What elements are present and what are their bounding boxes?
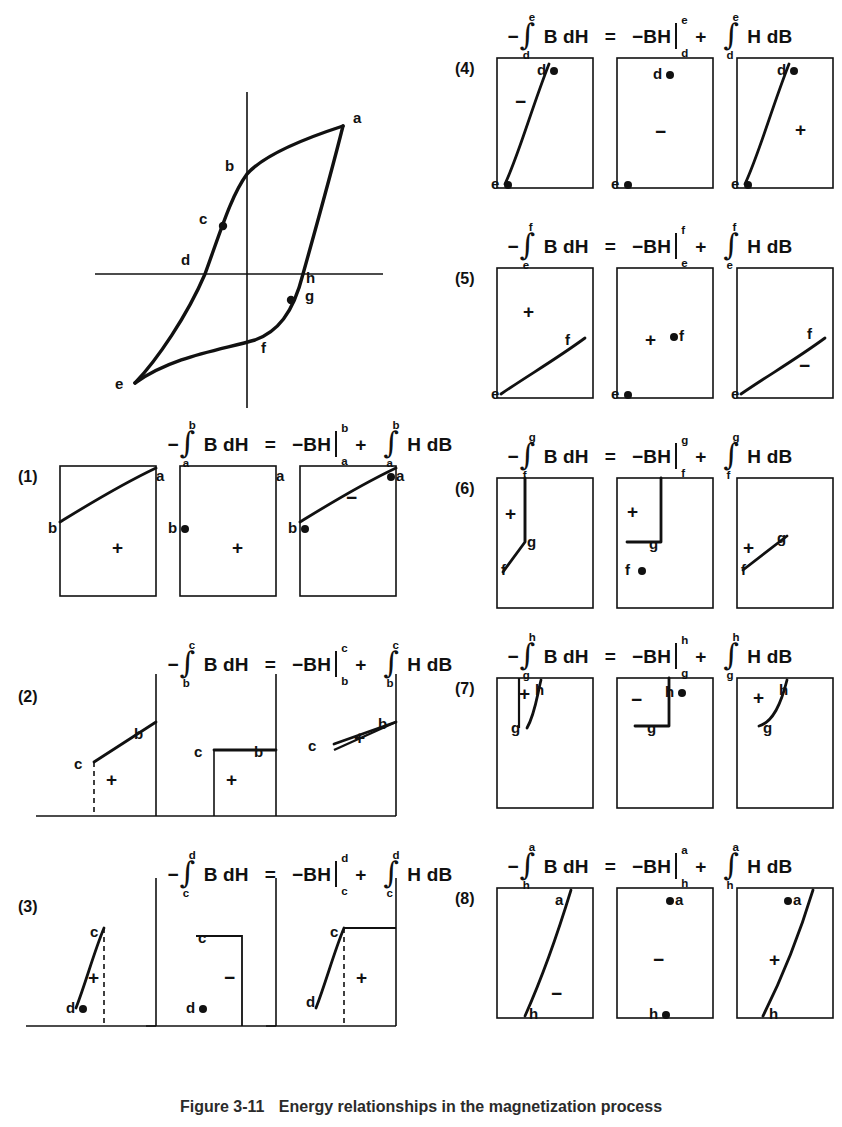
panel-box: +bc <box>300 686 396 816</box>
point-dot-d <box>550 67 558 75</box>
figure-caption: Figure 3-11 Energy relationships in the … <box>0 1098 842 1116</box>
point-dot-a <box>387 473 395 481</box>
area-sign: + <box>795 120 806 139</box>
point-dot-a <box>666 897 674 905</box>
area-sign: + <box>743 538 754 557</box>
point-dot-d <box>790 67 798 75</box>
point-label-h: h <box>779 682 788 697</box>
point-dot-e <box>744 181 752 189</box>
area-sign: − <box>515 92 526 111</box>
point-label-h: h <box>769 1006 778 1021</box>
panel-box: +cd <box>300 896 396 1026</box>
loop-point-dot-g <box>287 296 295 304</box>
area-sign: + <box>769 950 780 969</box>
point-dot-b <box>301 525 309 533</box>
loop-label-h: h <box>306 270 315 285</box>
area-sign: + <box>88 968 99 987</box>
point-dot-e <box>624 391 632 399</box>
loop-point-dot-c <box>219 222 227 230</box>
caption-text: Energy relationships in the magnetizatio… <box>279 1098 662 1115</box>
area-sign: − <box>799 356 810 375</box>
loop-label-a: a <box>353 110 361 125</box>
area-sign: − <box>551 984 562 1003</box>
area-sign: + <box>505 504 516 523</box>
loop-label-f: f <box>261 340 266 355</box>
point-label-d: d <box>777 62 786 77</box>
loop-label-d: d <box>181 252 190 267</box>
point-label-h: h <box>535 682 544 697</box>
point-label-c: c <box>198 930 206 945</box>
point-dot-f <box>670 333 678 341</box>
area-sign: − <box>655 122 666 141</box>
area-sign: + <box>356 968 367 987</box>
point-label-f: f <box>565 332 570 347</box>
point-label-d: d <box>653 66 662 81</box>
point-label-g: g <box>527 534 536 549</box>
point-label-b: b <box>168 520 177 535</box>
hysteresis-loop-diagram: a b c d e f g h <box>95 78 385 418</box>
area-sign: + <box>106 770 117 789</box>
point-label-f: f <box>679 328 684 343</box>
panel-box: +hg <box>737 678 833 808</box>
point-label-f: f <box>501 562 506 577</box>
loop-label-b: b <box>225 158 234 173</box>
point-label-d: d <box>537 62 546 77</box>
area-sign: − <box>653 950 664 969</box>
point-label-e: e <box>611 386 619 401</box>
point-dot-e <box>504 181 512 189</box>
point-label-f: f <box>625 562 630 577</box>
caption-number: Figure 3-11 <box>180 1098 264 1115</box>
area-sign: + <box>226 770 237 789</box>
area-sign: + <box>753 688 764 707</box>
point-label-c: c <box>308 738 316 753</box>
loop-label-e: e <box>115 376 123 391</box>
area-sign: + <box>519 684 530 703</box>
point-label-c: c <box>194 744 202 759</box>
point-dot-d <box>79 1005 87 1013</box>
area-sign: − <box>631 690 642 709</box>
point-label-g: g <box>777 530 786 545</box>
area-sign: − <box>346 488 357 507</box>
point-label-e: e <box>731 176 739 191</box>
point-label-d: d <box>306 994 315 1009</box>
point-label-h: h <box>529 1006 538 1021</box>
point-label-e: e <box>491 176 499 191</box>
point-dot-d <box>199 1005 207 1013</box>
point-label-b: b <box>48 520 57 535</box>
point-dot-f <box>638 567 646 575</box>
panel-box: +de <box>737 58 833 188</box>
point-dot-d <box>666 71 674 79</box>
panel-box: −fe <box>737 268 833 398</box>
point-label-a: a <box>555 892 563 907</box>
area-sign: − <box>224 968 235 987</box>
point-label-f: f <box>807 326 812 341</box>
point-label-e: e <box>491 386 499 401</box>
point-label-b: b <box>288 520 297 535</box>
point-label-g: g <box>763 720 772 735</box>
loop-label-g: g <box>305 288 314 303</box>
point-label-g: g <box>649 536 658 551</box>
point-label-h: h <box>665 684 674 699</box>
panel-box: +gf <box>737 478 833 608</box>
point-label-e: e <box>611 176 619 191</box>
area-sign: + <box>523 302 534 321</box>
area-sign: + <box>112 538 123 557</box>
point-label-d: d <box>66 1000 75 1015</box>
point-dot-a <box>784 897 792 905</box>
point-label-a: a <box>793 892 801 907</box>
point-label-c: c <box>90 924 98 939</box>
point-label-f: f <box>741 562 746 577</box>
point-label-b: b <box>378 716 387 731</box>
point-label-h: h <box>649 1006 658 1021</box>
point-dot-b <box>181 525 189 533</box>
point-label-g: g <box>647 720 656 735</box>
point-label-d: d <box>186 1000 195 1015</box>
area-sign: + <box>627 502 638 521</box>
point-label-a: a <box>675 892 683 907</box>
loop-label-c: c <box>199 211 207 226</box>
point-label-a: a <box>396 468 404 483</box>
panel-box: −ab <box>300 466 396 596</box>
area-sign: + <box>354 728 365 747</box>
point-dot-e <box>624 181 632 189</box>
point-dot-h <box>662 1011 670 1019</box>
